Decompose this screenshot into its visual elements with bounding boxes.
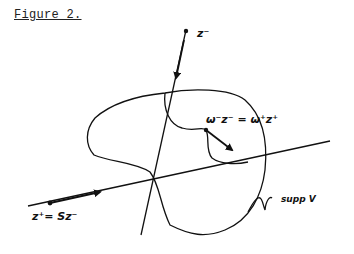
z-minus-label: z⁻: [196, 27, 209, 40]
omega-arrow: [206, 130, 232, 150]
figure-diagram: z⁻ ω⁻z⁻ = ω⁺z⁺ z⁺= Sz⁻ supp V: [0, 0, 354, 254]
z-plus-label: z⁺= Sz⁻: [31, 210, 78, 223]
z-minus-point: [184, 29, 188, 33]
z-minus-arrow: [176, 40, 184, 78]
supp-squiggle: [248, 198, 272, 213]
z-plus-arrow: [50, 192, 100, 203]
support-region-curve: [87, 90, 265, 235]
omega-equation-label: ω⁻z⁻ = ω⁺z⁺: [206, 113, 278, 126]
supp-v-label: supp V: [281, 194, 317, 204]
